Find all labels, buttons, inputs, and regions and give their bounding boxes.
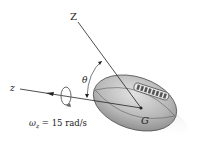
angular-velocity-label: ωz = 15 rad/s xyxy=(29,118,87,129)
football-diagram: Z z θ G ωz = 15 rad/s xyxy=(0,0,197,150)
z-axis-arrowhead xyxy=(46,92,54,96)
theta-label: θ xyxy=(82,75,88,85)
theta-arrowhead-bottom xyxy=(85,94,89,98)
z-axis-label: z xyxy=(9,83,15,93)
omega-symbol: ω xyxy=(29,118,36,128)
center-of-mass-point xyxy=(140,107,143,110)
omega-value: = 15 rad/s xyxy=(39,118,87,128)
Z-axis-label: Z xyxy=(70,11,77,22)
center-label: G xyxy=(141,115,149,126)
